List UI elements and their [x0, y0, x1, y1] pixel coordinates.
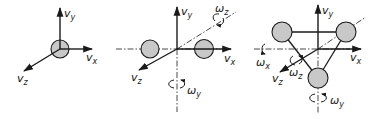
panel-nonlinear: vy vx vz ωx ωz ωy [254, 4, 366, 114]
vz-label: vz [131, 71, 143, 86]
omega-y-label: ωy [330, 94, 344, 109]
panel-monatomic: vy vx vz [17, 7, 98, 87]
vy-label: vy [322, 4, 334, 19]
atom-left [141, 40, 159, 58]
atom-bottom [308, 68, 328, 88]
diagram-canvas: vy vx vz vy vx vz ωz ωy [0, 0, 382, 119]
vx-label: vx [224, 52, 236, 67]
vx-label: vx [86, 51, 98, 66]
omega-y-label: ωy [187, 84, 201, 99]
atom-top-left [272, 22, 292, 42]
dof-diagram: vy vx vz vy vx vz ωz ωy [0, 0, 382, 119]
vy-label: vy [64, 7, 76, 22]
atom-top-right [336, 22, 356, 42]
omega-z-label: ωz [215, 2, 229, 17]
vx-label: vx [350, 51, 362, 66]
vz-label: vz [17, 72, 29, 87]
vy-label: vy [181, 5, 193, 20]
omega-x-label: ωx [256, 56, 270, 71]
vz-label: vz [272, 72, 284, 87]
panel-linear: vy vx vz ωz ωy [116, 2, 236, 112]
vz-arrow [280, 49, 318, 72]
omega-z-label: ωz [289, 66, 303, 81]
vz-arrow [24, 49, 60, 71]
